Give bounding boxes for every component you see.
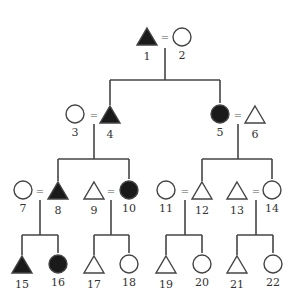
male-icon (156, 256, 176, 273)
female-icon (120, 255, 138, 273)
male-icon (192, 182, 212, 199)
individual-label: 2 (179, 49, 186, 62)
individual-label: 3 (72, 126, 79, 139)
marriage-symbol: = (181, 186, 189, 197)
female-icon (173, 28, 191, 46)
marriage-symbol: = (161, 32, 169, 43)
female-icon (14, 181, 32, 199)
male-icon (227, 256, 247, 273)
individual-label: 17 (87, 278, 101, 291)
marriage-symbol: = (234, 110, 242, 121)
individual-label: 22 (266, 276, 280, 289)
female-icon (193, 255, 211, 273)
individual-label: 4 (107, 128, 114, 141)
marriage-symbol: = (252, 186, 260, 197)
individual-label: 7 (20, 202, 27, 215)
individual-label: 15 (15, 278, 29, 291)
marriage-symbol: = (107, 186, 115, 197)
pedigree-diagram: =======123456789101112131415161718192021… (0, 0, 289, 300)
individual-label: 18 (122, 276, 136, 289)
affected-female-icon (49, 255, 67, 273)
female-icon (263, 181, 281, 199)
affected-male-icon (137, 28, 157, 45)
individual-label: 16 (51, 276, 65, 289)
marriage-symbol: = (36, 186, 44, 197)
male-icon (84, 256, 104, 273)
individual-label: 8 (55, 204, 62, 217)
male-icon (245, 106, 265, 123)
individual-label: 6 (252, 128, 259, 141)
marriage-symbol: = (90, 110, 98, 121)
individual-label: 5 (217, 126, 224, 139)
affected-male-icon (12, 256, 32, 273)
individual-label: 13 (230, 204, 244, 217)
female-icon (157, 181, 175, 199)
individual-label: 14 (265, 202, 279, 215)
male-icon (84, 182, 104, 199)
male-icon (227, 182, 247, 199)
individual-label: 10 (122, 202, 136, 215)
affected-male-icon (100, 106, 120, 123)
affected-female-icon (211, 105, 229, 123)
individual-label: 20 (195, 276, 209, 289)
individual-label: 1 (144, 50, 151, 63)
female-icon (66, 105, 84, 123)
affected-male-icon (48, 182, 68, 199)
individual-label: 12 (195, 204, 209, 217)
individual-label: 11 (159, 202, 173, 215)
female-icon (264, 255, 282, 273)
individual-label: 21 (230, 278, 244, 291)
individual-label: 19 (159, 278, 173, 291)
affected-female-icon (120, 181, 138, 199)
individual-label: 9 (91, 204, 98, 217)
pedigree-canvas: =======123456789101112131415161718192021… (0, 0, 289, 300)
